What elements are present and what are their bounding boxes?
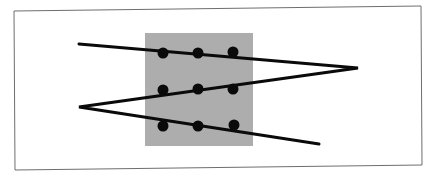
nine-dots-diagram [0, 0, 433, 178]
dot [158, 121, 169, 132]
